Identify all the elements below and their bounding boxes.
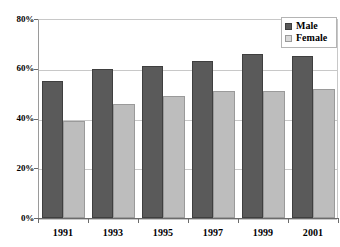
legend-label-male: Male xyxy=(296,21,318,31)
y-tick-label-40: 40% xyxy=(2,114,34,123)
scan-artifact-bottom xyxy=(100,239,338,246)
x-tick-mark-1993 xyxy=(88,218,89,223)
x-tick-label-1997: 1997 xyxy=(187,227,239,238)
x-tick-label-1993: 1993 xyxy=(87,227,139,238)
bar-male-1993 xyxy=(92,69,114,218)
x-tick-mark-1991 xyxy=(38,218,39,223)
x-tick-mark-end xyxy=(338,218,339,223)
bar-female-1995 xyxy=(163,96,185,218)
bar-chart: 0%20%40%60%80% Male Female 1991199319951… xyxy=(0,0,340,247)
y-tick-label-80: 80% xyxy=(2,15,34,24)
scan-artifact-top xyxy=(8,0,332,6)
x-tick-label-1991: 1991 xyxy=(37,227,89,238)
legend-label-female: Female xyxy=(296,33,327,43)
bar-male-1991 xyxy=(42,81,64,218)
bar-female-1997 xyxy=(213,91,235,218)
bar-male-1997 xyxy=(192,61,214,218)
bar-female-1991 xyxy=(63,121,85,218)
bar-male-2001 xyxy=(292,56,314,218)
legend-item-female: Female xyxy=(285,32,333,44)
bar-female-1999 xyxy=(263,91,285,218)
y-tick-mark-40 xyxy=(34,119,38,120)
bar-male-1999 xyxy=(242,54,264,218)
y-tick-mark-80 xyxy=(34,19,38,20)
x-tick-label-1999: 1999 xyxy=(237,227,289,238)
bar-female-2001 xyxy=(313,89,335,218)
x-tick-mark-1997 xyxy=(188,218,189,223)
y-tick-label-60: 60% xyxy=(2,64,34,73)
x-tick-label-2001: 2001 xyxy=(287,227,339,238)
y-tick-label-20: 20% xyxy=(2,164,34,173)
x-tick-label-1995: 1995 xyxy=(137,227,189,238)
y-tick-label-0: 0% xyxy=(2,214,34,223)
x-tick-mark-1995 xyxy=(138,218,139,223)
y-tick-mark-60 xyxy=(34,69,38,70)
legend-swatch-male-icon xyxy=(285,23,292,30)
bar-male-1995 xyxy=(142,66,164,218)
y-tick-mark-20 xyxy=(34,168,38,169)
legend-item-male: Male xyxy=(285,20,333,32)
legend: Male Female xyxy=(281,17,337,48)
x-tick-mark-1999 xyxy=(238,218,239,223)
legend-swatch-female-icon xyxy=(285,35,292,42)
y-axis: 0%20%40%60%80% xyxy=(0,0,34,247)
x-tick-mark-2001 xyxy=(288,218,289,223)
bar-female-1993 xyxy=(113,104,135,218)
